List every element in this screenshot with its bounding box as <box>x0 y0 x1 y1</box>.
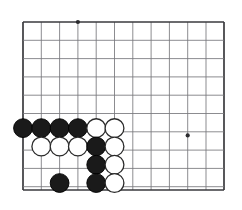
stone-white[interactable] <box>50 137 69 156</box>
stone-black[interactable] <box>32 119 51 138</box>
stone-black[interactable] <box>87 174 106 193</box>
star-point-1 <box>186 133 190 137</box>
stone-black[interactable] <box>87 155 106 174</box>
diagram-root <box>0 0 242 210</box>
board-stones <box>14 119 124 193</box>
stone-black[interactable] <box>87 137 106 156</box>
go-board-container <box>0 0 242 210</box>
stone-black[interactable] <box>69 119 88 138</box>
stone-white[interactable] <box>105 155 124 174</box>
stone-black[interactable] <box>14 119 33 138</box>
stone-white[interactable] <box>32 137 51 156</box>
star-point-0 <box>76 20 80 24</box>
stone-black[interactable] <box>50 119 69 138</box>
stone-white[interactable] <box>105 174 124 193</box>
go-board-svg <box>0 0 242 210</box>
stone-white[interactable] <box>105 119 124 138</box>
stone-black[interactable] <box>50 174 69 193</box>
stone-white[interactable] <box>105 137 124 156</box>
stone-white[interactable] <box>87 119 106 138</box>
stone-white[interactable] <box>69 137 88 156</box>
